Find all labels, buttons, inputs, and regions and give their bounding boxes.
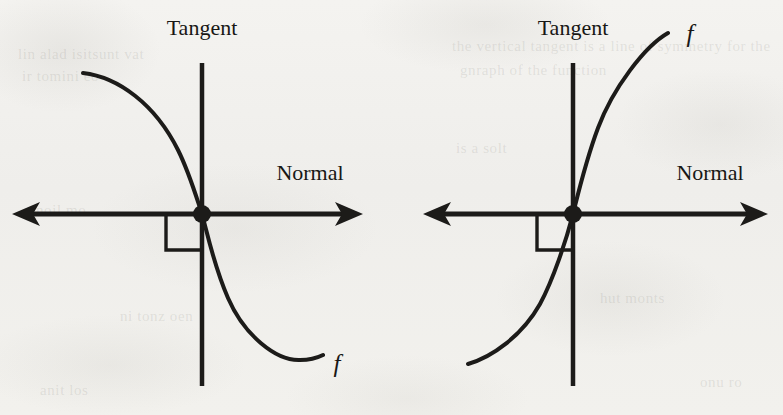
diagram-right: Tangent Normal f	[423, 15, 768, 386]
normal-label-left: Normal	[276, 160, 343, 185]
normal-label-right: Normal	[676, 160, 743, 185]
figure-page: lin alad isitsunt vat ir tomini eo the v…	[0, 0, 783, 415]
origin-point-right	[564, 205, 582, 223]
curve-f-right	[468, 33, 668, 364]
tangent-label-left: Tangent	[167, 15, 238, 40]
curve-label-f-right: f	[687, 20, 697, 47]
normal-axis-right	[423, 202, 768, 226]
diagram-left: Tangent Normal f	[12, 15, 363, 386]
curve-label-f-left: f	[334, 350, 344, 377]
origin-point-left	[193, 205, 211, 223]
tangent-label-right: Tangent	[538, 15, 609, 40]
normal-axis-left	[12, 202, 363, 226]
figure-canvas: Tangent Normal f Tangent Normal f	[0, 0, 783, 415]
